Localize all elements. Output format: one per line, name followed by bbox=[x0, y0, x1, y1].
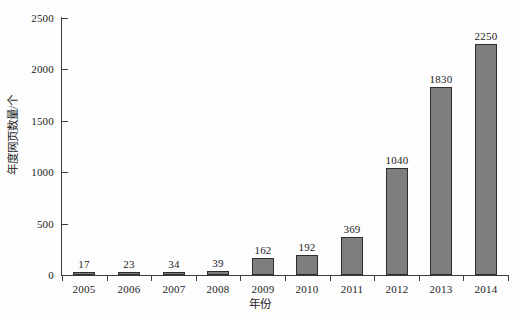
x-axis-tick bbox=[463, 276, 464, 281]
x-axis-tick-label: 2011 bbox=[329, 283, 375, 296]
bar-value-label: 2250 bbox=[459, 30, 513, 42]
bar bbox=[118, 272, 140, 275]
bar bbox=[386, 168, 408, 275]
x-axis-tick bbox=[508, 276, 509, 281]
y-axis-tick bbox=[62, 121, 68, 122]
x-axis-tick-label: 2012 bbox=[374, 283, 420, 296]
x-axis-tick bbox=[330, 276, 331, 281]
x-axis-tick bbox=[107, 276, 108, 281]
x-axis-tick bbox=[374, 276, 375, 281]
x-axis-tick-label: 2008 bbox=[195, 283, 241, 296]
bar bbox=[73, 272, 95, 275]
x-axis-tick-label: 2005 bbox=[61, 283, 107, 296]
y-axis-tick bbox=[62, 172, 68, 173]
x-axis-tick bbox=[196, 276, 197, 281]
bar-value-label: 1040 bbox=[370, 154, 424, 166]
x-axis-tick bbox=[285, 276, 286, 281]
bar bbox=[296, 255, 318, 275]
bar-value-label: 192 bbox=[280, 241, 334, 253]
x-axis-tick bbox=[419, 276, 420, 281]
y-axis-tick-label: 2500 bbox=[14, 13, 54, 24]
bar-value-label: 39 bbox=[191, 257, 245, 269]
bar bbox=[207, 271, 229, 275]
y-axis-tick-label: 500 bbox=[14, 219, 54, 230]
bar bbox=[430, 87, 452, 275]
chart-figure: 05001000150020002500 2005200620072008200… bbox=[0, 0, 519, 320]
y-axis-tick bbox=[62, 224, 68, 225]
y-axis-tick-label: 1000 bbox=[14, 167, 54, 178]
y-axis-tick-label: 1500 bbox=[14, 116, 54, 127]
bar bbox=[475, 44, 497, 275]
bar bbox=[252, 258, 274, 275]
x-axis-tick-label: 2009 bbox=[240, 283, 286, 296]
y-axis-line bbox=[61, 17, 62, 276]
x-axis-tick-label: 2010 bbox=[284, 283, 330, 296]
x-axis-tick-label: 2007 bbox=[151, 283, 197, 296]
x-axis-title: 年份 bbox=[0, 297, 519, 311]
x-axis-tick-label: 2006 bbox=[106, 283, 152, 296]
x-axis-tick bbox=[151, 276, 152, 281]
bar-value-label: 1830 bbox=[414, 73, 468, 85]
y-axis-tick-label: 0 bbox=[14, 270, 54, 281]
x-axis-tick-label: 2014 bbox=[463, 283, 509, 296]
x-axis-tick bbox=[62, 276, 63, 281]
bar bbox=[163, 272, 185, 275]
y-axis-tick-label: 2000 bbox=[14, 64, 54, 75]
y-axis-tick bbox=[62, 69, 68, 70]
x-axis-tick-label: 2013 bbox=[418, 283, 464, 296]
y-axis-tick bbox=[62, 18, 68, 19]
y-axis-title: 年度网页数量/个 bbox=[6, 70, 20, 200]
bar bbox=[341, 237, 363, 275]
x-axis-tick bbox=[240, 276, 241, 281]
bar-value-label: 369 bbox=[325, 223, 379, 235]
